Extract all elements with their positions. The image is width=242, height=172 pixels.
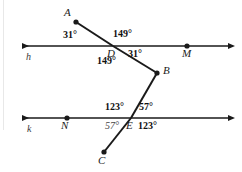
geometry-diagram: A D M B N E C h k 31° 149° 31° 149° 123°… [0,0,242,172]
transversal-path-group [76,22,157,152]
geometry-canvas [0,0,242,172]
angle-label-e-lower-right: 123° [138,121,157,131]
point-label-n: N [61,120,68,131]
point-dot-a [73,19,78,24]
point-label-m: M [182,48,191,59]
angle-label-d-upper-left: 31° [63,30,77,40]
angle-label-d-lower-right: 31° [128,49,142,59]
angle-label-d-upper-right: 149° [113,29,132,39]
angle-label-e-lower-left: 57° [105,121,119,131]
line-label-k: k [27,124,31,134]
segment-AD [76,22,113,46]
line-label-h: h [26,52,31,62]
point-label-c: C [98,155,105,166]
point-label-e: E [126,120,133,131]
angle-label-e-upper-right: 57° [139,102,153,112]
point-label-a: A [64,7,71,18]
point-dot-b [154,70,159,75]
angle-label-d-lower-left: 149° [97,56,116,66]
vertex-dots-group [64,19,189,154]
point-label-b: B [163,65,170,76]
angle-label-e-upper-left: 123° [105,102,124,112]
